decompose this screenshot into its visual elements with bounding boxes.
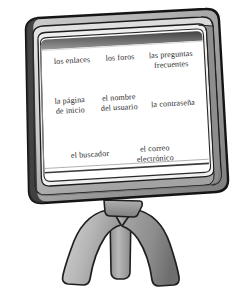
- monitor-illustration: los enlaces los foros las preguntas frec…: [0, 0, 238, 299]
- monitor-stand-icon: [63, 200, 180, 286]
- stand-neck: [104, 200, 142, 217]
- screen-item-el-nombre-del-usuario: el nombre del usuario: [90, 91, 149, 113]
- screen-item-el-correo-electronico: el correo electrónico: [126, 142, 185, 164]
- screen-item-las-preguntas-frecuentes: las preguntas frecuentes: [139, 48, 204, 71]
